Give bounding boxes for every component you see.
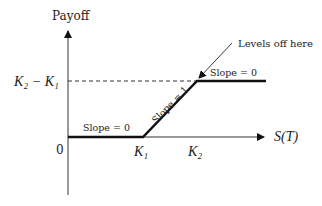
slope-label-left: Slope = 0 [83,122,130,133]
x-tick-k1: K₁ [133,144,148,159]
annotation-label: Levels off here [238,38,313,49]
slope-label-middle: Slope = 1 [150,84,191,125]
y-tick-label: K₂ − K₁ [13,74,59,89]
x-axis-label: S(T) [274,129,298,145]
y-axis-label: Payoff [52,9,91,23]
origin-label: 0 [56,143,64,157]
payoff-diagram: Payoff S(T) 0 K₂ − K₁ K₁ K₂ Slope = 0 Sl… [0,0,322,206]
slope-label-right: Slope = 0 [210,67,257,78]
x-tick-k2: K₂ [187,144,202,159]
